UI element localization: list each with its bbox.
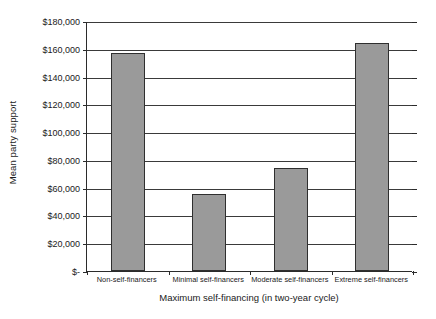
x-axis-tick-labels: Non-self-financersMinimal self-financers… (86, 275, 412, 291)
plot-area (86, 22, 412, 272)
y-tick-mark-right (412, 22, 417, 23)
y-tick-mark-right (412, 161, 417, 162)
y-tick-mark-right (412, 189, 417, 190)
y-tick-label: $100,000 (42, 128, 80, 138)
y-tick-label: $160,000 (42, 45, 80, 55)
x-tick-label: Moderate self-financers (251, 275, 328, 284)
bar-chart-figure: Mean party support $-$20,000$40,000$60,0… (0, 0, 436, 319)
x-tick-label: Non-self-financers (97, 275, 157, 284)
y-axis-tick-labels: $-$20,000$40,000$60,000$80,000$100,000$1… (26, 0, 84, 284)
y-tick-label: $60,000 (47, 184, 80, 194)
y-tick-label: $140,000 (42, 73, 80, 83)
y-axis-title-text: Mean party support (8, 100, 19, 184)
y-axis-title: Mean party support (0, 0, 26, 284)
bar (355, 43, 389, 271)
y-tick-mark-right (412, 244, 417, 245)
y-tick-label: $- (72, 267, 80, 277)
y-tick-label: $120,000 (42, 100, 80, 110)
y-tick-mark-right (412, 78, 417, 79)
x-axis-title: Maximum self-financing (in two-year cycl… (86, 292, 412, 303)
x-axis-title-text: Maximum self-financing (in two-year cycl… (159, 292, 339, 303)
x-tick-label: Extreme self-financers (334, 275, 408, 284)
y-tick-label: $80,000 (47, 156, 80, 166)
y-tick-label: $20,000 (47, 239, 80, 249)
bars-group (87, 22, 412, 271)
y-tick-label: $180,000 (42, 17, 80, 27)
y-tick-label: $40,000 (47, 211, 80, 221)
y-tick-mark-right (412, 133, 417, 134)
y-tick-mark-right (412, 216, 417, 217)
y-tick-mark-right (412, 50, 417, 51)
bar (192, 194, 226, 271)
x-tick-mark (413, 271, 414, 275)
x-tick-label: Minimal self-financers (173, 275, 244, 284)
y-tick-mark-right (412, 105, 417, 106)
bar (274, 168, 308, 271)
bar (111, 53, 145, 271)
